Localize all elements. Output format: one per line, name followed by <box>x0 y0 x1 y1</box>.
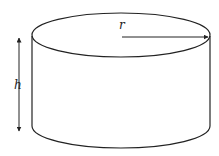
cylinder-diagram: r h <box>0 0 219 156</box>
radius-label: r <box>119 18 126 32</box>
cylinder-bottom-arc <box>32 126 210 148</box>
height-label: h <box>14 78 22 92</box>
